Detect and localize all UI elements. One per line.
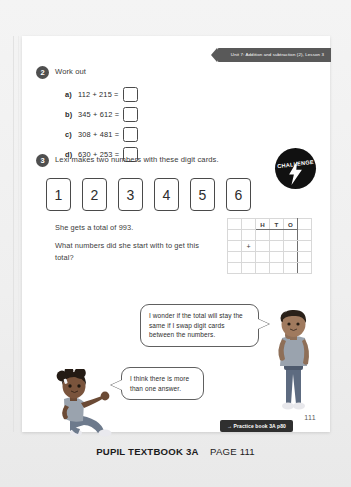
hto-addend-row-2: + (228, 241, 312, 252)
question-2-part-a: a) 112 + 215 = (65, 84, 138, 104)
question-2-part-c: c) 308 + 481 = (65, 124, 138, 144)
answer-box-b[interactable] (123, 107, 138, 122)
banner-title: PUPIL TEXTBOOK 3A (96, 446, 198, 457)
hto-table: H T O + (227, 218, 312, 274)
hto-blank-cell (242, 263, 256, 274)
digit-card[interactable]: 4 (154, 178, 179, 211)
question-2-number: 2 (36, 66, 49, 79)
hto-entry-cell[interactable] (256, 230, 270, 241)
hto-blank-cell (242, 219, 256, 230)
hto-entry-cell[interactable] (284, 241, 298, 252)
hto-header-o: O (284, 219, 298, 230)
question-2-parts: a) 112 + 215 = b) 345 + 612 = c) 308 + 4… (65, 84, 138, 164)
hto-blank-cell (298, 263, 312, 274)
textbook-page: Unit 7: Addition and subtraction (2), Le… (22, 36, 330, 432)
total-statement: She gets a total of 993. (55, 222, 133, 234)
hto-sum-row (228, 252, 312, 263)
hto-entry-cell[interactable] (270, 230, 284, 241)
digit-card[interactable]: 3 (118, 178, 143, 211)
hto-entry-cell[interactable] (270, 241, 284, 252)
hto-extra-row (228, 263, 312, 274)
hto-blank-cell (242, 230, 256, 241)
character-girl-illustration (50, 369, 124, 445)
screenshot-root: Unit 7: Addition and subtraction (2), Le… (0, 0, 351, 487)
part-expression: 345 + 612 = (78, 110, 119, 119)
digit-cards: 1 2 3 4 5 6 (46, 178, 251, 211)
hto-column-grid: H T O + (227, 218, 315, 274)
hto-blank-cell (228, 241, 242, 252)
question-2-part-b: b) 345 + 612 = (65, 104, 138, 124)
hto-header-t: T (270, 219, 284, 230)
question-2-prompt: Work out (55, 67, 86, 76)
hto-addend-row-1 (228, 230, 312, 241)
answer-box-c[interactable] (123, 127, 138, 142)
hto-entry-cell[interactable] (256, 241, 270, 252)
part-label: a) (65, 90, 78, 99)
hto-entry-cell[interactable] (284, 230, 298, 241)
hto-blank-cell (228, 230, 242, 241)
digit-card[interactable]: 5 (190, 178, 215, 211)
speech-bubble-girl: I think there is more than one answer. (121, 367, 204, 400)
part-label: b) (65, 110, 78, 119)
hto-blank-cell (298, 241, 312, 252)
answer-box-a[interactable] (123, 87, 138, 102)
part-label: c) (65, 130, 78, 139)
hto-entry-cell[interactable] (284, 252, 298, 263)
hto-blank-cell (242, 252, 256, 263)
question-3-prompt: Lexi makes two numbers with these digit … (55, 155, 219, 164)
hto-entry-cell[interactable] (284, 263, 298, 274)
book-spine-line (13, 36, 14, 432)
hto-blank-cell (298, 252, 312, 263)
character-boy-illustration (264, 308, 326, 412)
hto-entry-cell[interactable] (270, 252, 284, 263)
hto-blank-cell (298, 230, 312, 241)
hto-entry-cell[interactable] (270, 263, 284, 274)
question-3-number: 3 (36, 154, 49, 167)
hto-operator: + (242, 241, 256, 252)
speech-bubble-boy: I wonder if the total will stay the same… (140, 304, 259, 347)
part-expression: 112 + 215 = (78, 90, 119, 99)
part-expression: 308 + 481 = (78, 130, 119, 139)
book-spine-line-secondary (18, 36, 19, 432)
hto-header-h: H (256, 219, 270, 230)
banner-page-label: PAGE 111 (210, 446, 255, 457)
practice-book-reference[interactable]: → Practice book 3A p80 (220, 420, 293, 432)
digit-card[interactable]: 6 (226, 178, 251, 211)
hto-header-row: H T O (228, 219, 312, 230)
hto-blank-cell (228, 263, 242, 274)
hto-entry-cell[interactable] (256, 263, 270, 274)
question-statement: What numbers did she start with to get t… (55, 240, 205, 263)
challenge-badge: CHALLENGE (275, 148, 316, 189)
page-number: 111 (304, 414, 316, 421)
hto-blank-cell (228, 252, 242, 263)
hto-entry-cell[interactable] (256, 252, 270, 263)
lightning-bolt-icon (287, 161, 304, 185)
hto-blank-cell (228, 219, 242, 230)
digit-card[interactable]: 1 (46, 178, 71, 211)
hto-blank-cell (298, 219, 312, 230)
digit-card[interactable]: 2 (82, 178, 107, 211)
pupil-textbook-banner: PUPIL TEXTBOOK 3A PAGE 111 (0, 446, 351, 457)
unit-lesson-tab: Unit 7: Addition and subtraction (2), Le… (217, 48, 331, 62)
